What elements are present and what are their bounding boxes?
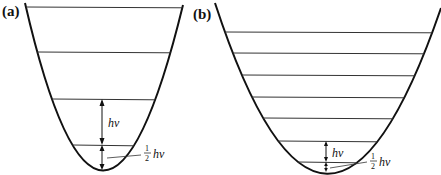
panel-b-half-hv-label: 1 2 hν <box>370 152 391 171</box>
panel-a: (a) hν 1 2 hν <box>2 3 183 171</box>
energy-level-0 <box>298 162 357 163</box>
energy-level-1 <box>52 99 155 100</box>
svg-text:2: 2 <box>371 162 375 171</box>
energy-level-6 <box>225 32 432 33</box>
panel-a-leader-line <box>107 155 141 158</box>
energy-level-3 <box>252 97 404 98</box>
svg-text:hν: hν <box>379 155 391 169</box>
energy-level-0 <box>73 145 134 146</box>
svg-text:hν: hν <box>153 147 165 161</box>
energy-level-1 <box>278 141 377 142</box>
panel-a-label: (a) <box>2 3 20 20</box>
svg-text:2: 2 <box>145 154 149 163</box>
panel-b-potential-curve <box>215 3 441 174</box>
panel-b: (b) hν 1 2 hν <box>193 3 441 174</box>
panel-a-zero-point-arrow <box>100 145 105 170</box>
energy-level-2 <box>263 118 393 119</box>
panel-b-levels <box>225 32 432 163</box>
harmonic-oscillator-diagram: (a) hν 1 2 hν (b) hν <box>0 0 441 175</box>
panel-b-zero-point-arrow <box>324 162 328 172</box>
panel-a-half-hv-label: 1 2 hν <box>144 144 165 163</box>
panel-b-hv-label: hν <box>332 146 344 160</box>
energy-level-3 <box>26 7 182 8</box>
energy-level-5 <box>233 53 424 54</box>
panel-a-hv-label: hν <box>108 116 120 130</box>
svg-text:1: 1 <box>145 144 149 153</box>
panel-a-quantum-arrow <box>100 99 105 145</box>
panel-b-quantum-arrow <box>324 141 328 162</box>
energy-level-4 <box>242 75 415 76</box>
energy-level-2 <box>37 52 170 53</box>
svg-text:1: 1 <box>371 152 375 161</box>
panel-b-label: (b) <box>193 6 211 23</box>
panel-a-levels <box>26 7 182 146</box>
